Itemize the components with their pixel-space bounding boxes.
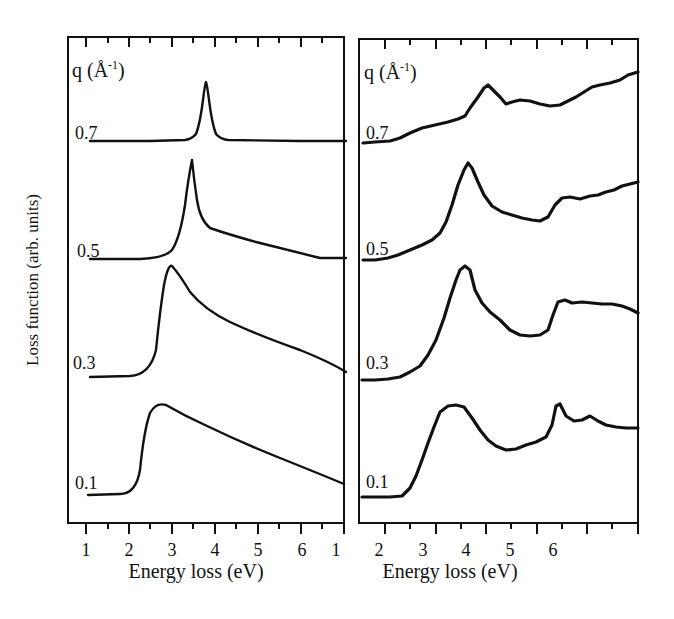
left-top-ticks <box>86 37 322 47</box>
right-x-tick-label: 4 <box>462 540 471 560</box>
right-curve-q0.7 <box>363 72 638 143</box>
left-curve-q0.7 <box>90 82 346 141</box>
left-x-tick-label: 3 <box>168 540 177 560</box>
right-panel: 1 2 3 4 5 6 Energy loss (eV) q (Å-1) 0.7… <box>332 39 639 583</box>
right-curve-q0.5 <box>363 163 638 260</box>
left-curve-q0.5 <box>90 160 346 259</box>
left-x-tick-label: 6 <box>298 540 307 560</box>
left-x-tick-label: 2 <box>125 540 134 560</box>
right-curve-label-0.5: 0.5 <box>366 239 389 259</box>
left-x-tick-label: 5 <box>254 540 263 560</box>
left-bottom-ticks <box>86 523 344 534</box>
right-top-ticks <box>385 39 612 49</box>
left-curve-q0.1 <box>88 404 344 495</box>
right-curve-q0.1 <box>362 404 638 497</box>
right-curve-q0.3 <box>362 266 638 380</box>
y-axis-label: Loss function (arb. units) <box>23 194 42 366</box>
left-x-tick-label: 1 <box>82 540 91 560</box>
left-curve-q0.3 <box>90 266 346 377</box>
right-bottom-ticks <box>385 523 638 534</box>
left-plot-frame <box>68 37 344 523</box>
right-x-tick-label: 3 <box>419 540 428 560</box>
right-x-tick-label: 1 <box>332 540 341 560</box>
right-curve-label-0.1: 0.1 <box>366 472 389 492</box>
left-x-tick-label: 4 <box>211 540 220 560</box>
left-panel: 1 2 3 4 5 6 Energy loss (eV) q (Å-1) 0.7… <box>68 37 346 583</box>
right-plot-frame <box>359 39 638 523</box>
figure: Loss function (arb. units) <box>0 0 674 619</box>
right-legend-title: q (Å-1) <box>364 60 417 84</box>
left-curve-label-0.1: 0.1 <box>75 473 98 493</box>
right-curve-label-0.3: 0.3 <box>366 353 389 373</box>
right-x-tick-label: 5 <box>506 540 515 560</box>
left-legend-title: q (Å-1) <box>72 58 125 82</box>
right-x-tick-label: 2 <box>375 540 384 560</box>
left-x-axis-label: Energy loss (eV) <box>128 560 263 583</box>
right-x-axis-label: Energy loss (eV) <box>382 560 517 583</box>
left-curve-label-0.3: 0.3 <box>73 353 96 373</box>
right-x-tick-label: 6 <box>549 540 558 560</box>
